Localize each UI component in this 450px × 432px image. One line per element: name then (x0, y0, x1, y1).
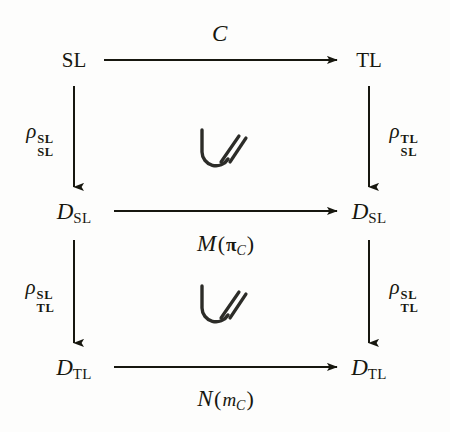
rho-right-upper-subscript: SL (401, 146, 419, 160)
rho-left-lower-superscript: SL (37, 288, 55, 302)
arrow-label-middle-open-paren: ( (217, 231, 226, 256)
node-d-sl-left-base: D (57, 199, 74, 224)
arrow-label-top-functor: C (212, 21, 228, 46)
arrow-label-bottom-close-paren: ) (245, 386, 254, 411)
node-tl-label: TL (356, 48, 382, 72)
commute-symbol-upper (202, 130, 246, 166)
rho-label-left-lower: ρ SL TL (26, 277, 55, 316)
arrow-label-bottom-open-paren: ( (213, 386, 222, 411)
rho-label-right-upper: ρ TL SL (390, 121, 419, 160)
node-d-sl-left-subscript: SL (73, 210, 91, 226)
arrow-label-middle-arg: π (226, 234, 236, 255)
arrow-label-middle-functor: M (197, 231, 217, 256)
rho-right-upper-superscript: TL (401, 132, 419, 146)
node-d-tl-right-subscript: TL (368, 366, 387, 382)
commutative-diagram: SL TL DSL DSL DTL DTL C M(πC) N(mC) ρ SL… (0, 0, 450, 432)
node-d-tl-right-base: D (351, 355, 368, 380)
rho-left-upper-subscript: SL (37, 146, 54, 160)
node-d-sl-right-subscript: SL (368, 210, 386, 226)
rho-left-upper-glyph: ρ (26, 119, 36, 143)
node-d-tl-left-base: D (56, 355, 73, 380)
arrow-label-middle-arg-subscript: C (236, 243, 245, 258)
node-sl-label: SL (62, 48, 87, 72)
node-d-tl-right: DTL (351, 356, 387, 379)
rho-left-lower-glyph: ρ (26, 275, 36, 299)
arrow-label-middle-close-paren: ) (246, 231, 255, 256)
arrow-label-bottom-functor: N (197, 386, 213, 411)
arrow-label-middle: M(πC) (197, 232, 255, 255)
node-d-tl-left-subscript: TL (73, 366, 92, 382)
rho-label-left-upper: ρ SL SL (26, 121, 54, 160)
node-d-tl-left: DTL (56, 356, 92, 379)
node-sl: SL (62, 50, 87, 71)
rho-right-upper-glyph: ρ (390, 119, 400, 143)
node-d-sl-right-base: D (352, 199, 369, 224)
arrow-label-bottom-arg-subscript: C (236, 398, 245, 413)
rho-right-lower-subscript: TL (401, 302, 419, 316)
rho-label-right-lower: ρ SL TL (390, 277, 419, 316)
commute-symbol-lower (202, 286, 246, 322)
arrow-label-bottom: N(mC) (197, 387, 255, 410)
arrow-label-bottom-arg: m (222, 389, 236, 410)
node-d-sl-left: DSL (57, 200, 92, 223)
rho-left-lower-subscript: TL (37, 302, 55, 316)
node-tl: TL (356, 50, 382, 71)
rho-right-lower-superscript: SL (401, 288, 419, 302)
arrow-label-top: C (212, 22, 228, 45)
rho-right-lower-glyph: ρ (390, 275, 400, 299)
rho-left-upper-superscript: SL (37, 132, 54, 146)
node-d-sl-right: DSL (352, 200, 387, 223)
